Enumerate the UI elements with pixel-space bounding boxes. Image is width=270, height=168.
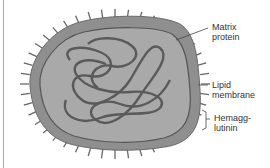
hemagglutinin-spike <box>200 93 209 94</box>
label-matrix-protein: Matrix protein <box>212 22 240 42</box>
diagram-frame: Matrix protein Lipid membrane Hemagg- lu… <box>0 0 270 168</box>
hemagglutinin-spike <box>21 93 30 94</box>
hemagglutinin-spike <box>198 63 207 66</box>
hemagglutinin-spike <box>200 73 209 74</box>
hemagglutinin-spike <box>21 73 30 74</box>
hemagglutinin-spike <box>24 103 33 106</box>
label-hemagglutinin: Hemagg- lutinin <box>214 113 251 133</box>
hemagglutinin-spike <box>29 53 37 57</box>
hemagglutinin-spike <box>88 147 91 156</box>
hemagglutinin-spike <box>35 43 43 48</box>
hemagglutinin-spike <box>101 149 102 158</box>
label-lipid-membrane: Lipid membrane <box>212 80 255 100</box>
hemagglutinin-spike <box>24 63 33 66</box>
